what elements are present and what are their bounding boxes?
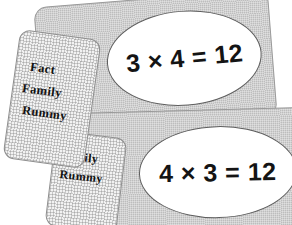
equation-oval-bottom: 4 × 3 = 12 <box>138 124 292 220</box>
equation-text-top: 3 × 4 = 12 <box>124 38 244 78</box>
equation-oval-top: 3 × 4 = 12 <box>103 5 265 112</box>
label-top-line-fact: Fact <box>29 60 56 78</box>
label-bottom-line-rummy: Rummy <box>59 167 104 186</box>
label-top-line-rummy: Rummy <box>21 103 68 124</box>
label-top-line-family: Family <box>21 81 63 101</box>
equation-text-bottom: 4 × 3 = 12 <box>159 157 277 188</box>
cards-scene: 3 × 4 = 12 4 × 3 = 12 Fact Family Rummy … <box>0 0 292 225</box>
